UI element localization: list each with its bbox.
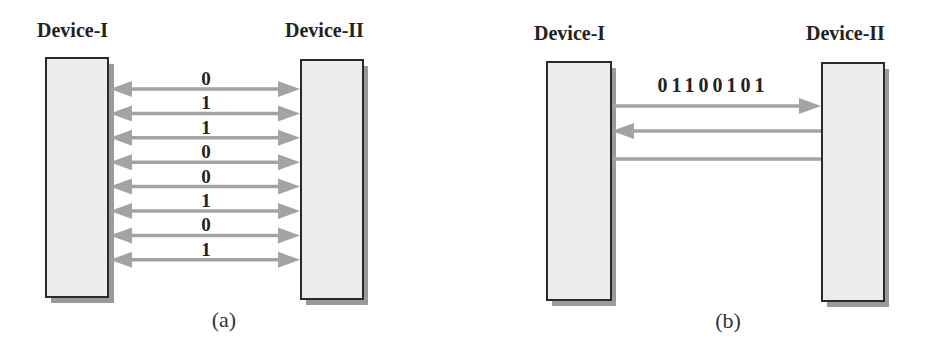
arrowhead-right-icon (278, 179, 300, 195)
diagram-b-lines (612, 98, 821, 159)
bit-label: 0 (201, 214, 211, 235)
diagram-b-device-i-box (547, 62, 611, 300)
arrowhead-right-icon (278, 81, 300, 97)
diagram-a-bit-lines: 01100101 (110, 68, 300, 268)
bit-label: 1 (201, 117, 211, 138)
diagram-b-serial: Device-I Device-II 01100101 (b) (534, 22, 889, 333)
bit-label: 1 (201, 239, 211, 260)
diagram-a-device-ii-label: Device-II (285, 19, 364, 41)
arrowhead-right-icon (278, 130, 300, 146)
transmission-diagram: Device-I Device-II 01100101 (a) Device-I… (0, 0, 927, 340)
diagram-a-device-ii-box (301, 60, 363, 299)
diagram-a-parallel: Device-I Device-II 01100101 (a) (37, 19, 368, 332)
arrowhead-right-icon (278, 105, 300, 121)
diagram-b-device-i-label: Device-I (534, 22, 605, 44)
bit-label: 0 (201, 166, 211, 187)
diagram-b-device-ii-label: Device-II (806, 22, 885, 44)
serial-line (612, 98, 821, 114)
bit-label: 0 (201, 68, 211, 89)
parallel-bit-line: 1 (110, 239, 300, 268)
diagram-b-device-ii-box (822, 63, 884, 301)
bit-label: 1 (201, 190, 211, 211)
arrowhead-right-icon (278, 203, 300, 219)
diagram-a-caption: (a) (212, 307, 236, 332)
arrowhead-right-icon (278, 154, 300, 170)
arrowhead-right-icon (278, 227, 300, 243)
arrowhead-right-icon (799, 98, 821, 114)
diagram-b-caption: (b) (715, 308, 741, 333)
diagram-a-device-i-label: Device-I (37, 19, 108, 41)
bit-label: 1 (201, 92, 211, 113)
arrowhead-right-icon (278, 252, 300, 268)
bit-label: 0 (201, 141, 211, 162)
serial-line (612, 123, 821, 139)
diagram-b-bit-string: 01100101 (658, 74, 769, 96)
diagram-a-device-i-box (46, 58, 108, 297)
